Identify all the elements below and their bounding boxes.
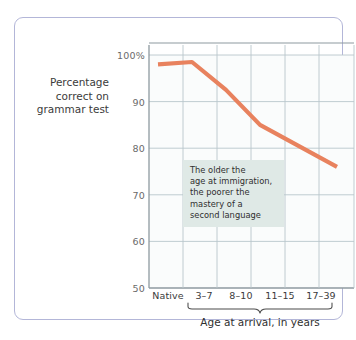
brace-icon bbox=[187, 303, 333, 314]
y-axis-title-line-3: grammar test bbox=[35, 103, 109, 117]
x-axis-brace bbox=[187, 303, 333, 314]
y-tick-90: 90 bbox=[133, 96, 146, 107]
x-axis-caption: Age at arrival, in years bbox=[165, 316, 355, 328]
annotation-line-2: age at immigration, bbox=[190, 176, 278, 187]
y-axis-tick-labels: 100% 90 80 70 60 50 bbox=[111, 55, 145, 288]
annotation-line-1: The older the bbox=[190, 165, 278, 176]
y-axis-title-line-1: Percentage bbox=[35, 76, 109, 90]
x-tick-11-15: 11–15 bbox=[265, 290, 294, 301]
x-tick-8-10: 8–10 bbox=[229, 290, 252, 301]
figure-frame: Percentage correct on grammar test 100% … bbox=[14, 17, 343, 320]
annotation-line-4: mastery of a bbox=[190, 199, 278, 210]
y-axis-title: Percentage correct on grammar test bbox=[35, 76, 109, 117]
y-tick-60: 60 bbox=[133, 236, 146, 247]
annotation-line-5: second language bbox=[190, 210, 278, 221]
x-tick-17-39: 17–39 bbox=[306, 290, 335, 301]
x-tick-3-7: 3–7 bbox=[195, 290, 212, 301]
plot-area: The older the age at immigration, the po… bbox=[149, 55, 354, 288]
annotation-line-3: the poorer the bbox=[190, 187, 278, 198]
trend-annotation-callout: The older the age at immigration, the po… bbox=[183, 160, 284, 227]
y-tick-50: 50 bbox=[133, 283, 146, 294]
y-tick-70: 70 bbox=[133, 189, 146, 200]
x-tick-native: Native bbox=[152, 290, 183, 301]
y-axis-title-line-2: correct on bbox=[35, 90, 109, 104]
y-tick-100: 100% bbox=[117, 50, 145, 61]
y-tick-80: 80 bbox=[133, 143, 146, 154]
